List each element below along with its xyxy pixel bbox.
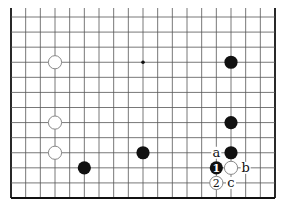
black-stone <box>224 116 237 129</box>
point-label-a: a <box>212 145 220 160</box>
point-label-c: c <box>227 175 234 190</box>
black-stone <box>224 146 237 159</box>
white-stone: 2 <box>210 176 223 190</box>
white-stone <box>48 146 61 159</box>
black-stone <box>136 146 149 159</box>
black-stone: 1 <box>210 161 223 175</box>
star-points <box>141 60 145 64</box>
go-board: 12 abc <box>0 0 283 209</box>
white-stone <box>48 56 61 69</box>
black-stone <box>224 56 237 69</box>
move-number: 2 <box>213 177 220 190</box>
star-point <box>141 60 145 64</box>
white-stone <box>48 116 61 129</box>
point-label-b: b <box>242 160 250 175</box>
move-number: 1 <box>213 162 221 175</box>
white-stone <box>224 161 237 174</box>
black-stone <box>78 161 91 174</box>
